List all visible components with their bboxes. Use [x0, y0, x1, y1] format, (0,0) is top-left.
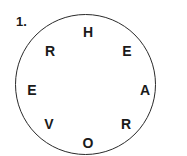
letter-lower-right: R — [118, 116, 134, 132]
letter-top: H — [80, 24, 96, 40]
letter-bottom: O — [80, 135, 96, 151]
letter-upper-right: E — [119, 43, 135, 59]
puzzle-number: 1. — [16, 15, 27, 28]
letter-upper-left: R — [42, 43, 58, 59]
letter-left: E — [24, 82, 40, 98]
letter-right: A — [137, 82, 153, 98]
letter-lower-left: V — [41, 116, 57, 132]
